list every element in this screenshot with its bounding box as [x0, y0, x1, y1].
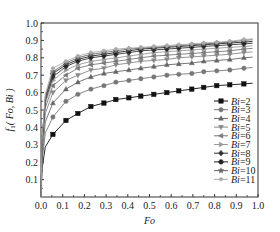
plus-marker-icon [219, 178, 223, 182]
x-tick-label: 0.9 [230, 200, 243, 211]
y-tick-label: 0.9 [26, 35, 39, 46]
square-marker-icon [114, 97, 118, 101]
plus-marker-icon [127, 46, 131, 50]
x-tick-label: 0.4 [122, 200, 135, 211]
circle-marker-icon [64, 99, 68, 103]
square-marker-icon [139, 94, 143, 98]
y-tick-label: 0.8 [26, 52, 39, 63]
y-tick-label: 1.0 [26, 18, 39, 29]
square-marker-icon [51, 132, 55, 136]
circle-marker-icon [228, 68, 232, 72]
square-marker-icon [76, 111, 80, 115]
x-tick-label: 0.5 [143, 200, 156, 211]
y-tick-label: 0.6 [26, 87, 39, 98]
y-tick-label: 0.5 [26, 105, 39, 116]
square-marker-icon [152, 92, 156, 96]
plus-marker-icon [64, 60, 68, 64]
plus-marker-icon [51, 66, 55, 70]
square-marker-icon [165, 90, 169, 94]
legend-label: Bi=11 [231, 174, 255, 185]
square-marker-icon [177, 89, 181, 93]
plus-marker-icon [165, 44, 169, 48]
plus-marker-icon [89, 51, 93, 55]
circle-marker-icon [177, 72, 181, 76]
circle-marker-icon [127, 78, 131, 82]
triangle-right-marker-icon [219, 142, 223, 147]
plus-marker-icon [228, 40, 232, 44]
plus-marker-icon [114, 47, 118, 51]
series-line [41, 52, 253, 197]
y-tick-label: 0.7 [26, 70, 39, 81]
square-marker-icon [202, 85, 206, 89]
x-tick-label: 0.1 [56, 200, 69, 211]
x-tick-label: 0.3 [100, 200, 113, 211]
square-marker-icon [219, 99, 223, 103]
square-marker-icon [64, 118, 68, 122]
y-tick-label: 0.1 [26, 174, 39, 185]
plus-marker-icon [102, 49, 106, 53]
plus-marker-icon [76, 54, 80, 58]
x-tick-label: 0.2 [78, 200, 91, 211]
square-marker-icon [190, 87, 194, 91]
circle-marker-icon [190, 71, 194, 75]
circle-marker-icon [76, 92, 80, 96]
triangle-up-marker-icon [64, 86, 69, 90]
plus-marker-icon [202, 41, 206, 45]
circle-marker-icon [102, 83, 106, 87]
triangle-left-marker-icon [218, 133, 222, 138]
circle-marker-icon [219, 108, 223, 112]
series-bi-6 [41, 47, 253, 197]
circle-marker-icon [165, 73, 169, 77]
circle-marker-icon [215, 69, 219, 73]
circle-marker-icon [152, 75, 156, 79]
plus-marker-icon [242, 38, 246, 42]
circle-marker-icon [139, 76, 143, 80]
y-axis-title: f1( Fo, Bi ) [4, 88, 17, 132]
star-marker-icon [218, 168, 223, 173]
diamond-marker-icon [219, 150, 224, 156]
legend-item: Bi=11 [214, 174, 255, 185]
circle-marker-icon [242, 66, 246, 70]
circle-marker-icon [89, 87, 93, 91]
y-tick-label: 0.2 [26, 157, 39, 168]
series-bi-5 [41, 51, 253, 197]
square-marker-icon [228, 83, 232, 87]
square-marker-icon [89, 104, 93, 108]
x-axis-title: Fo [143, 215, 155, 226]
square-marker-icon [215, 83, 219, 87]
plus-marker-icon [215, 40, 219, 44]
square-marker-icon [127, 96, 131, 100]
plus-marker-icon [190, 42, 194, 46]
circle-marker-icon [51, 115, 55, 119]
plus-marker-icon [152, 45, 156, 49]
plus-marker-icon [177, 43, 181, 47]
square-marker-icon [242, 82, 246, 86]
legend: Bi=2Bi=3Bi=4Bi=5Bi=6Bi=7Bi=8Bi=9Bi=10Bi=… [214, 96, 256, 185]
x-tick-label: 0.8 [208, 200, 221, 211]
circle-marker-icon [114, 80, 118, 84]
svg-text:f1( Fo, Bi ): f1( Fo, Bi ) [4, 88, 17, 132]
plus-marker-icon [139, 46, 143, 50]
x-tick-label: 0.6 [165, 200, 178, 211]
y-tick-label: 0.3 [26, 139, 39, 150]
hexagon-marker-icon [218, 160, 223, 164]
line-chart: 0.00.10.20.30.40.50.60.70.80.91.0 0.10.2… [0, 0, 280, 232]
x-tick-label: 0.7 [187, 200, 200, 211]
y-tick-label: 0.4 [26, 122, 39, 133]
circle-marker-icon [202, 70, 206, 74]
x-tick-label: 0.0 [35, 200, 48, 211]
x-tick-label: 1.0 [252, 200, 265, 211]
series-line [41, 46, 253, 197]
square-marker-icon [102, 101, 106, 105]
